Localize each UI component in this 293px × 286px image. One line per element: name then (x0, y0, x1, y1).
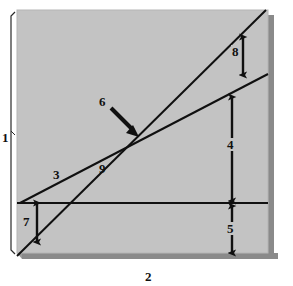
label-1: 1 (2, 131, 9, 144)
label-6: 6 (99, 95, 106, 108)
diagram-svg (0, 0, 293, 286)
label-9: 9 (99, 162, 106, 175)
label-8: 8 (231, 45, 240, 58)
label-4: 4 (226, 138, 235, 151)
label-3: 3 (53, 168, 60, 181)
figure-canvas: 1 2 3 9 6 8 4 5 7 (0, 0, 293, 286)
label-7: 7 (22, 215, 31, 228)
label-2: 2 (145, 270, 152, 283)
label-5: 5 (226, 222, 235, 235)
vertical-axis-bracket (11, 12, 15, 254)
